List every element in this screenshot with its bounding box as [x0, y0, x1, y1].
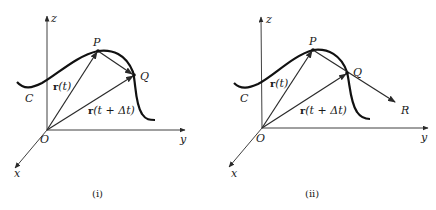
p-label: P [308, 35, 317, 48]
point-q [132, 73, 136, 77]
origin-label: O [256, 132, 265, 145]
r-t-dt-label: r(t + Δt) [88, 104, 135, 117]
r-t-label: r(t) [270, 77, 288, 90]
y-label: y [179, 133, 187, 146]
z-axis [261, 17, 262, 128]
z-label: z [50, 12, 57, 25]
figure-i: z y x O C P Q r(t) r(t + Δt) (i) [14, 12, 187, 199]
curve-label: C [25, 92, 34, 105]
point-p [311, 48, 315, 52]
origin-label: O [40, 133, 49, 146]
x-label: x [231, 167, 238, 180]
caption-ii: (ii) [305, 188, 319, 199]
p-label: P [92, 36, 101, 49]
x-label: x [14, 167, 21, 180]
curve-label: C [240, 92, 249, 105]
z-label: z [265, 13, 272, 26]
point-q [345, 71, 349, 75]
point-p [96, 49, 100, 53]
q-label: Q [353, 66, 362, 79]
r-t-dt-label: r(t + Δt) [300, 104, 347, 117]
diagram-canvas: z y x O C P Q r(t) r(t + Δt) (i) z y x [0, 0, 436, 210]
y-label: y [420, 131, 428, 144]
caption-i: (i) [92, 188, 103, 199]
r-t-label: r(t) [53, 80, 71, 93]
figure-ii: z y x O C P Q R r(t) r(t + Δt) (ii) [229, 13, 428, 199]
r-label: R [400, 104, 409, 117]
q-label: Q [140, 70, 149, 83]
